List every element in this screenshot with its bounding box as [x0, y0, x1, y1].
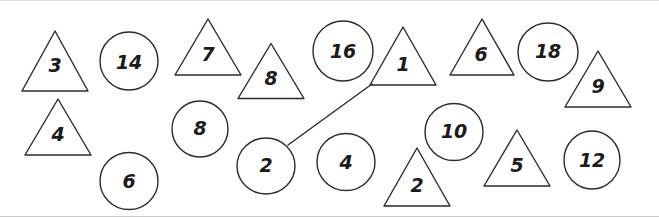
triangle-8[interactable] — [238, 44, 304, 99]
triangle-3[interactable] — [22, 31, 88, 91]
circle-6[interactable] — [100, 153, 158, 210]
triangle-7[interactable] — [175, 19, 241, 75]
triangle-1[interactable] — [370, 27, 436, 85]
circle-12[interactable] — [564, 131, 620, 189]
triangle-5[interactable] — [484, 130, 550, 186]
circle-16[interactable] — [313, 21, 373, 81]
circle-2[interactable] — [237, 138, 295, 194]
shape-layer — [0, 1, 659, 217]
circle-18[interactable] — [518, 23, 578, 81]
triangle-9[interactable] — [565, 51, 631, 107]
circle-4[interactable] — [317, 134, 375, 191]
triangle-6[interactable] — [450, 19, 514, 75]
triangle-4[interactable] — [25, 99, 91, 155]
circle-10[interactable] — [425, 104, 483, 161]
circle-14[interactable] — [100, 32, 158, 90]
shapes-diagram-canvas: 31478161618948624210512 — [0, 0, 659, 217]
circle-8[interactable] — [172, 101, 228, 157]
